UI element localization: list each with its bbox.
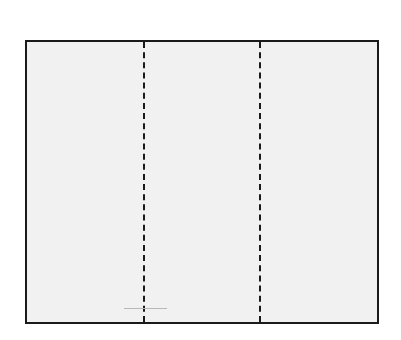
faint-guide-mark [124, 308, 167, 309]
trifold-sheet [25, 40, 379, 324]
fold-line-left [143, 42, 145, 322]
fold-line-right [259, 42, 261, 322]
